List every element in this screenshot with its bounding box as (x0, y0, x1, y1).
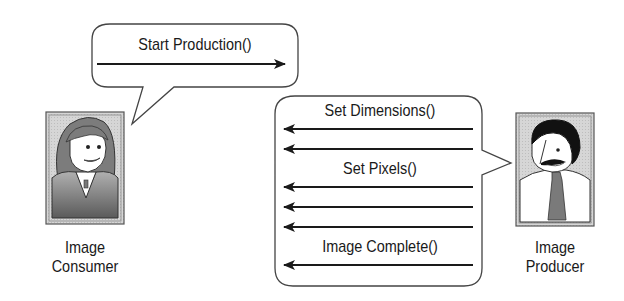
producer-actor-label: Image Producer (508, 238, 602, 276)
set-pixels-label: Set Pixels() (299, 159, 461, 179)
consumer-label-line1: Image (38, 238, 132, 257)
image-complete-label: Image Complete() (299, 237, 461, 257)
producer-speech-bubble (275, 96, 511, 286)
set-dimensions-label: Set Dimensions() (299, 101, 461, 121)
consumer-label-line2: Consumer (38, 257, 132, 276)
start-production-label: Start Production() (110, 35, 280, 55)
consumer-portrait (46, 112, 124, 224)
producer-label-line2: Producer (508, 257, 602, 276)
producer-label-line1: Image (508, 238, 602, 257)
producer-portrait (516, 113, 594, 226)
consumer-actor-label: Image Consumer (38, 238, 132, 276)
